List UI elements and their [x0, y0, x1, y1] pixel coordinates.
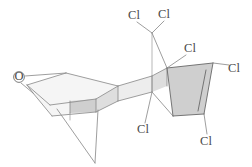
- atom-label-chlorine-top-right: Cl: [158, 7, 171, 21]
- structure-drawing: O Cl Cl Cl Cl Cl Cl: [0, 0, 252, 167]
- lower-methano-bridge: [57, 109, 98, 163]
- bond-ccl-bottom-mid: [145, 92, 152, 123]
- atom-label-chlorine-top-left: Cl: [128, 8, 141, 22]
- face-bridge-plane: [118, 76, 152, 101]
- atom-label-chlorine-bottom-mid: Cl: [137, 122, 150, 136]
- chemical-structure-figure: O Cl Cl Cl Cl Cl Cl: [0, 0, 252, 167]
- bond-ccl-bottom-right: [204, 114, 207, 134]
- atom-label-chlorine-far-right: Cl: [228, 61, 241, 75]
- bond-bridge-b: [95, 110, 98, 163]
- bond-ccl-far-right: [213, 63, 229, 65]
- bond-c5: [152, 92, 173, 116]
- atom-label-chlorine-upper-right: Cl: [184, 41, 197, 55]
- bond-bridge-a: [57, 109, 95, 163]
- atom-label-oxygen: O: [14, 69, 23, 83]
- bond-ccl-top-left: [137, 22, 152, 33]
- bond-ccl-top-right: [152, 21, 164, 33]
- shaded-faces: [22, 63, 213, 116]
- bond-ccl-bridge-down: [152, 33, 167, 68]
- atom-label-chlorine-bottom-right: Cl: [200, 134, 213, 148]
